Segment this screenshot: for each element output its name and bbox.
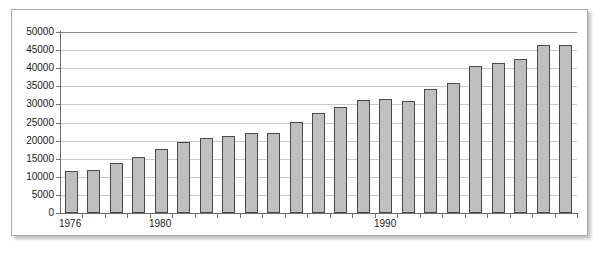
x-axis-tick (420, 214, 421, 218)
x-axis-tick (217, 214, 218, 218)
y-axis-tick-label: 10000 (26, 172, 54, 182)
x-axis-tick (262, 214, 263, 218)
bar (200, 138, 213, 213)
y-axis-line (60, 31, 61, 214)
y-axis-tick-label: 0 (48, 208, 54, 218)
bar (65, 171, 78, 213)
x-axis-tick-label: 1980 (149, 218, 171, 229)
bar (87, 170, 100, 213)
bar (267, 133, 280, 213)
y-axis-tick-label: 50000 (26, 27, 54, 37)
x-axis-tick-label: 1990 (374, 218, 396, 229)
y-axis-tick-label: 40000 (26, 63, 54, 73)
x-axis-tick (105, 214, 106, 218)
x-axis-tick (510, 214, 511, 218)
x-axis-tick (465, 214, 466, 218)
y-axis-tick-label: 15000 (26, 154, 54, 164)
screenshot-root: 5000045000400003500030000250002000015000… (0, 0, 607, 258)
x-axis-tick (397, 214, 398, 218)
x-axis-line (60, 213, 578, 214)
bar (537, 45, 550, 213)
bar (402, 101, 415, 213)
x-axis-tick (577, 214, 578, 218)
bar (514, 59, 527, 213)
x-axis-tick (442, 214, 443, 218)
bar (447, 83, 460, 213)
bar (110, 163, 123, 213)
bar (290, 122, 303, 213)
y-axis-tick-label: 30000 (26, 99, 54, 109)
y-axis-tick-label: 25000 (26, 118, 54, 128)
x-axis-tick (330, 214, 331, 218)
bar (424, 89, 437, 213)
bar (132, 157, 145, 213)
gridline (60, 50, 577, 51)
chart-frame-panel: 5000045000400003500030000250002000015000… (11, 9, 588, 236)
y-axis-tick-label: 20000 (26, 136, 54, 146)
bar (177, 142, 190, 213)
x-axis-tick (195, 214, 196, 218)
x-axis-tick (127, 214, 128, 218)
x-axis-tick (532, 214, 533, 218)
bar (492, 63, 505, 213)
bar (245, 133, 258, 213)
bar (559, 45, 572, 213)
x-axis-tick (82, 214, 83, 218)
y-axis-tick-label: 35000 (26, 81, 54, 91)
y-axis-labels: 5000045000400003500030000250002000015000… (12, 10, 54, 237)
y-axis-tick-label: 45000 (26, 45, 54, 55)
bar (312, 113, 325, 213)
x-axis-tick (240, 214, 241, 218)
x-axis-tick (307, 214, 308, 218)
bar (334, 107, 347, 213)
bar (222, 136, 235, 213)
x-axis-tick (172, 214, 173, 218)
chart-canvas: 5000045000400003500030000250002000015000… (12, 10, 589, 237)
x-axis-tick (285, 214, 286, 218)
bar (155, 149, 168, 213)
x-axis-tick (555, 214, 556, 218)
x-axis-tick (487, 214, 488, 218)
bar (357, 100, 370, 213)
gridline (60, 32, 577, 33)
y-axis-tick-label: 5000 (32, 190, 54, 200)
bar (469, 66, 482, 213)
x-axis-tick-label: 1976 (59, 218, 81, 229)
x-axis-tick (352, 214, 353, 218)
bar (379, 99, 392, 213)
